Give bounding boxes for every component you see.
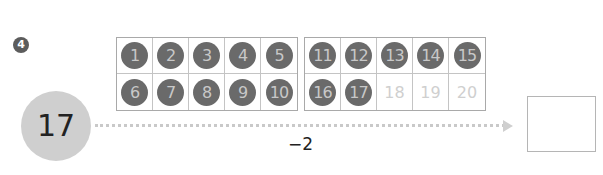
ten-frame-cell: 10 [261,74,297,110]
ten-frame-cell: 9 [225,74,261,110]
counter-dot: 8 [193,79,220,106]
counter-dot: 7 [157,79,184,106]
ten-frame-cell: 17 [341,74,377,110]
counter-dot: 5 [266,42,293,69]
counter-dot: 17 [345,79,372,106]
counter-dot: 6 [121,79,148,106]
ten-frame-cell: 7 [153,74,189,110]
ten-frame-cell: 3 [189,38,225,74]
counter-dot: 1 [121,42,148,69]
operation-label: −2 [288,134,313,154]
counter-dot: 14 [417,42,444,69]
empty-cell-number: 19 [420,83,440,102]
counter-dot: 2 [157,42,184,69]
ten-frame-cell: 13 [377,38,413,74]
counter-dot: 3 [193,42,220,69]
counter-dot: 13 [381,42,408,69]
start-number-circle: 17 [21,91,91,161]
question-number-badge: 4 [13,37,29,53]
counter-dot: 4 [229,42,256,69]
empty-cell-number: 20 [457,83,477,102]
counter-dot: 12 [345,42,372,69]
ten-frame-cell: 14 [413,38,449,74]
ten-frame-cell: 2 [153,38,189,74]
counter-dot: 15 [454,42,481,69]
counter-dot: 16 [309,79,336,106]
arrow-head-icon [503,120,513,132]
ten-frame-cell: 19 [413,74,449,110]
empty-cell-number: 18 [384,83,404,102]
counter-dot: 11 [309,42,336,69]
ten-frame-cell: 5 [261,38,297,74]
ten-frame-cell: 16 [305,74,341,110]
ten-frame-cell: 15 [449,38,485,74]
dotted-arrow-line [95,124,505,127]
ten-frame-cell: 6 [117,74,153,110]
ten-frame-cell: 8 [189,74,225,110]
ten-frame-11-20: 11121314151617181920 [304,37,486,111]
ten-frame-cell: 20 [449,74,485,110]
ten-frame-cell: 18 [377,74,413,110]
counter-dot: 9 [229,79,256,106]
ten-frame-1-10: 12345678910 [116,37,298,111]
ten-frame-cell: 12 [341,38,377,74]
counter-dot: 10 [266,79,293,106]
ten-frame-cell: 4 [225,38,261,74]
answer-box[interactable] [527,96,596,152]
ten-frame-cell: 1 [117,38,153,74]
ten-frame-cell: 11 [305,38,341,74]
